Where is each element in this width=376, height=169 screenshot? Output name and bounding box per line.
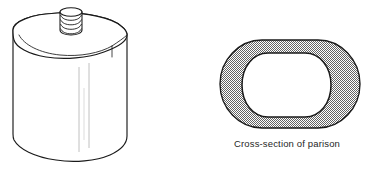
parison-bore-outline: [242, 53, 331, 117]
parison-cross-section: [216, 36, 366, 134]
neck-top-rim-icon: [60, 8, 82, 16]
cross-section-caption: Cross-section of parison: [208, 138, 366, 149]
bottle-illustration: [13, 8, 127, 162]
bottle-neck: [60, 8, 82, 35]
figure-root: Cross-section of parison: [0, 0, 376, 169]
